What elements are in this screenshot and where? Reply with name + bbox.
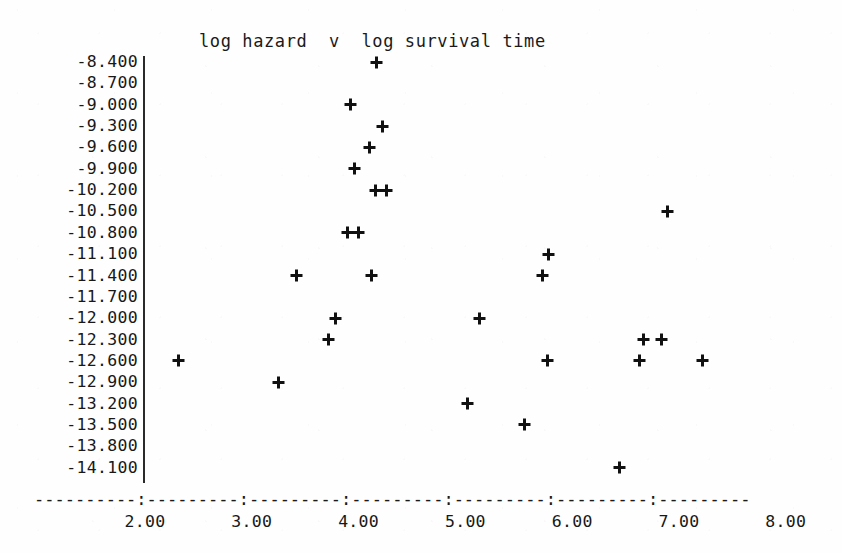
data-point-marker — [376, 120, 389, 133]
x-axis-tick-label: 3.00 — [217, 511, 287, 533]
x-axis-tick-label: 2.00 — [110, 511, 180, 533]
y-axis-tick-label: -13.200 — [52, 394, 138, 414]
data-point-marker — [633, 354, 646, 367]
scatter-plot-figure: log hazard v log survival time -8.400-8.… — [0, 0, 842, 553]
y-axis-tick-label: -14.100 — [52, 458, 138, 478]
chart-title: log hazard v log survival time — [0, 31, 842, 51]
data-point-marker — [541, 354, 554, 367]
y-axis-tick-label: -12.000 — [52, 308, 138, 328]
x-axis-tick-label: 6.00 — [537, 511, 607, 533]
data-point-marker — [348, 162, 361, 175]
x-axis-tick-labels: 2.003.004.005.006.007.008.00 — [0, 511, 842, 537]
y-axis-tick-label: -9.600 — [52, 137, 138, 157]
data-point-marker — [370, 56, 383, 69]
data-point-marker — [322, 333, 335, 346]
y-axis-tick-label: -12.900 — [52, 372, 138, 392]
data-point-marker — [363, 141, 376, 154]
data-point-marker — [272, 376, 285, 389]
data-point-marker — [655, 333, 668, 346]
y-axis-tick-label: -10.200 — [52, 180, 138, 200]
data-point-marker — [536, 269, 549, 282]
y-axis-tick-label: -9.900 — [52, 159, 138, 179]
y-axis-tick-label: -8.400 — [52, 52, 138, 72]
y-axis-tick-label: -11.100 — [52, 244, 138, 264]
x-axis-tick-label: 7.00 — [644, 511, 714, 533]
y-axis-tick-label: -9.300 — [52, 116, 138, 136]
data-point-marker — [461, 397, 474, 410]
data-point-marker — [365, 269, 378, 282]
data-point-marker — [613, 461, 626, 474]
data-point-marker — [473, 312, 486, 325]
data-point-marker — [352, 226, 365, 239]
data-point-marker — [518, 418, 531, 431]
data-point-marker — [380, 184, 393, 197]
y-axis-tick-label: -10.800 — [52, 223, 138, 243]
data-point-marker — [344, 98, 357, 111]
y-axis-tick-label: -12.600 — [52, 351, 138, 371]
data-point-marker — [661, 205, 674, 218]
y-axis-tick-label: -8.700 — [52, 73, 138, 93]
data-point-marker — [329, 312, 342, 325]
data-point-marker — [637, 333, 650, 346]
y-axis-tick-label: -13.800 — [52, 436, 138, 456]
y-axis-tick-label: -10.500 — [52, 201, 138, 221]
data-point-marker — [172, 354, 185, 367]
y-axis-tick-label: -12.300 — [52, 330, 138, 350]
y-axis-tick-labels: -8.400-8.700-9.000-9.300-9.600-9.900-10.… — [52, 52, 138, 472]
y-axis-tick-label: -13.500 — [52, 415, 138, 435]
data-point-marker — [696, 354, 709, 367]
data-point-marker — [542, 248, 555, 261]
plot-area — [145, 56, 835, 483]
x-axis-line: ----------:---------:---------:---------… — [34, 489, 824, 509]
data-point-marker — [290, 269, 303, 282]
y-axis-tick-label: -9.000 — [52, 95, 138, 115]
y-axis-tick-label: -11.700 — [52, 287, 138, 307]
x-axis-tick-label: 4.00 — [324, 511, 394, 533]
x-axis-tick-label: 8.00 — [751, 511, 821, 533]
y-axis-tick-label: -11.400 — [52, 266, 138, 286]
x-axis-tick-label: 5.00 — [430, 511, 500, 533]
